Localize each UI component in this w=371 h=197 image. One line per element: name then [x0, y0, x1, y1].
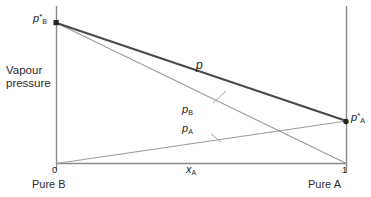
x-axis-variable-label: xA: [186, 163, 196, 177]
pa-star-label: p*A: [351, 111, 365, 125]
y-axis-label-line1: Vapour: [6, 64, 51, 77]
pure-a-label: Pure A: [308, 178, 341, 190]
vapour-pressure-diagram: Vapour pressure p*B p*A p pB pA 0 1 xA P…: [0, 0, 371, 197]
total-pressure-label: p: [196, 59, 203, 72]
y-axis-label-line2: pressure: [6, 77, 51, 90]
partial-pressure-b-label: pB: [182, 103, 193, 117]
xa-subscript: A: [192, 169, 197, 176]
x-tick-label-one: 1: [342, 165, 347, 176]
partial-pressure-a-label: pA: [182, 122, 193, 136]
x-tick-label-zero: 0: [52, 165, 57, 176]
pb-star-subscript: B: [42, 18, 47, 25]
pa-subscript: A: [188, 128, 193, 135]
y-axis-label: Vapour pressure: [6, 64, 51, 90]
marker-pb-star: [54, 20, 59, 25]
leader-line-pb: [213, 91, 226, 103]
pa-star-subscript: A: [360, 117, 365, 124]
pb-subscript: B: [188, 109, 193, 116]
pure-b-label: Pure B: [32, 178, 66, 190]
pb-star-label: p*B: [33, 12, 47, 26]
marker-pa-star: [343, 119, 348, 124]
